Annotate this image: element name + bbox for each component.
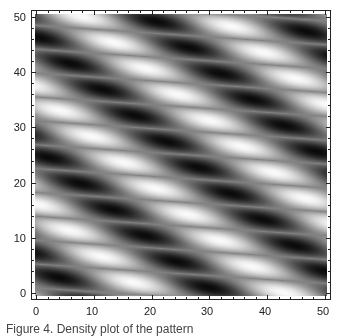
tick-mark: [175, 10, 176, 13]
tick-mark: [71, 10, 72, 13]
tick-mark: [313, 297, 314, 300]
tick-mark: [31, 28, 34, 29]
y-tick-label: 10: [0, 232, 26, 244]
tick-mark: [328, 50, 331, 51]
tick-mark: [328, 138, 331, 139]
y-tick-label: 0: [0, 287, 26, 299]
tick-mark: [31, 205, 34, 206]
tick-mark: [328, 249, 331, 250]
tick-mark: [117, 10, 118, 13]
tick-mark: [152, 295, 153, 300]
tick-mark: [328, 216, 331, 217]
tick-mark: [328, 282, 331, 283]
tick-mark: [267, 10, 268, 15]
tick-mark: [186, 297, 187, 300]
x-tick-label: 10: [80, 305, 104, 317]
tick-mark: [267, 295, 268, 300]
tick-mark: [233, 297, 234, 300]
tick-mark: [244, 10, 245, 13]
tick-mark: [48, 297, 49, 300]
tick-mark: [209, 10, 210, 15]
tick-mark: [31, 238, 36, 239]
tick-mark: [233, 10, 234, 13]
tick-mark: [48, 10, 49, 13]
x-tick-label: 20: [138, 305, 162, 317]
y-tick-label: 40: [0, 66, 26, 78]
tick-mark: [326, 72, 331, 73]
tick-mark: [31, 61, 34, 62]
tick-mark: [105, 297, 106, 300]
tick-mark: [36, 10, 37, 15]
tick-mark: [117, 297, 118, 300]
tick-mark: [31, 282, 34, 283]
tick-mark: [31, 216, 34, 217]
tick-mark: [31, 183, 36, 184]
tick-mark: [31, 293, 36, 294]
tick-mark: [140, 10, 141, 13]
tick-mark: [328, 161, 331, 162]
tick-mark: [328, 105, 331, 106]
tick-mark: [328, 94, 331, 95]
tick-mark: [82, 10, 83, 13]
tick-mark: [290, 10, 291, 13]
x-tick-label: 40: [253, 305, 277, 317]
tick-mark: [105, 10, 106, 13]
tick-mark: [221, 10, 222, 13]
tick-mark: [328, 149, 331, 150]
tick-mark: [82, 297, 83, 300]
tick-mark: [328, 83, 331, 84]
tick-mark: [59, 297, 60, 300]
tick-mark: [163, 297, 164, 300]
tick-mark: [31, 94, 34, 95]
tick-mark: [244, 297, 245, 300]
tick-mark: [94, 295, 95, 300]
tick-mark: [31, 127, 36, 128]
tick-mark: [328, 194, 331, 195]
tick-mark: [279, 297, 280, 300]
tick-mark: [326, 127, 331, 128]
tick-mark: [325, 295, 326, 300]
tick-mark: [31, 116, 34, 117]
tick-mark: [31, 271, 34, 272]
density-image: [35, 14, 327, 296]
tick-mark: [279, 10, 280, 13]
tick-mark: [31, 172, 34, 173]
tick-mark: [328, 271, 331, 272]
y-tick-label: 50: [0, 11, 26, 23]
tick-mark: [256, 10, 257, 13]
tick-mark: [290, 297, 291, 300]
tick-mark: [31, 260, 34, 261]
tick-mark: [328, 61, 331, 62]
tick-mark: [94, 10, 95, 15]
tick-mark: [326, 183, 331, 184]
tick-mark: [175, 297, 176, 300]
tick-mark: [140, 297, 141, 300]
tick-mark: [328, 260, 331, 261]
tick-mark: [31, 39, 34, 40]
tick-mark: [31, 138, 34, 139]
tick-mark: [31, 161, 34, 162]
tick-mark: [128, 10, 129, 13]
tick-mark: [31, 50, 34, 51]
tick-mark: [31, 249, 34, 250]
tick-mark: [325, 10, 326, 15]
tick-mark: [31, 72, 36, 73]
tick-mark: [328, 116, 331, 117]
tick-mark: [302, 297, 303, 300]
tick-mark: [328, 172, 331, 173]
density-plot: [31, 10, 331, 300]
tick-mark: [313, 10, 314, 13]
tick-mark: [31, 83, 34, 84]
tick-mark: [152, 10, 153, 15]
tick-mark: [31, 149, 34, 150]
tick-mark: [221, 297, 222, 300]
tick-mark: [31, 227, 34, 228]
tick-mark: [198, 297, 199, 300]
tick-mark: [302, 10, 303, 13]
tick-mark: [326, 17, 331, 18]
tick-mark: [198, 10, 199, 13]
tick-mark: [31, 194, 34, 195]
y-tick-label: 20: [0, 177, 26, 189]
x-tick-label: 30: [195, 305, 219, 317]
x-tick-label: 0: [24, 305, 48, 317]
